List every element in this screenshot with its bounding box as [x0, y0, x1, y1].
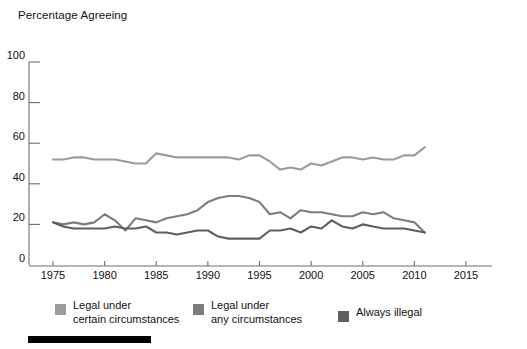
x-tick-label: 2005 — [351, 269, 375, 281]
x-tick-label: 1995 — [247, 269, 271, 281]
y-tick-label: 80 — [13, 90, 25, 102]
x-axis: 197519801985199019952000200520102015 — [29, 261, 492, 281]
x-tick-label: 1980 — [92, 269, 116, 281]
y-tick-label: 20 — [13, 211, 25, 223]
series-lines — [53, 147, 425, 238]
y-axis: 020406080100 — [7, 49, 40, 265]
chart-page: Percentage Agreeing 020406080100 1975198… — [0, 0, 527, 349]
footer-rule — [28, 336, 151, 343]
legend-item-legal-certain[interactable]: Legal under certain circumstances — [55, 299, 179, 326]
legend-swatch-legal-any — [193, 304, 204, 315]
legend-label-always-illegal: Always illegal — [356, 306, 422, 320]
series-line-0 — [53, 147, 425, 169]
legend-swatch-always-illegal — [338, 311, 349, 322]
legend-item-always-illegal[interactable]: Always illegal — [338, 306, 422, 322]
y-tick-label: 100 — [7, 49, 25, 61]
line-chart-svg: 020406080100 197519801985199019952000200… — [0, 0, 527, 349]
legend-item-legal-any[interactable]: Legal under any circumstances — [193, 299, 302, 326]
x-tick-label: 2000 — [299, 269, 323, 281]
legend-swatch-legal-certain — [55, 304, 66, 315]
x-tick-label: 1975 — [41, 269, 65, 281]
chart-legend: Legal under certain circumstances Legal … — [50, 298, 480, 328]
x-tick-label: 1985 — [144, 269, 168, 281]
x-tick-label: 1990 — [196, 269, 220, 281]
plot-area: 020406080100 197519801985199019952000200… — [0, 0, 527, 349]
series-line-2 — [53, 220, 425, 238]
x-tick-label: 2010 — [402, 269, 426, 281]
y-tick-label: 0 — [19, 252, 25, 264]
legend-label-legal-any: Legal under any circumstances — [211, 299, 302, 326]
x-tick-label: 2015 — [454, 269, 478, 281]
y-tick-label: 40 — [13, 171, 25, 183]
legend-label-legal-certain: Legal under certain circumstances — [73, 299, 179, 326]
y-tick-label: 60 — [13, 130, 25, 142]
